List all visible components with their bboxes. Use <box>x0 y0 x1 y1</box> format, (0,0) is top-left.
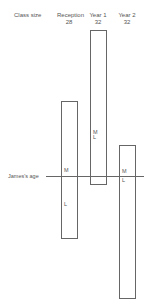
column-name: Year 2 <box>117 12 137 19</box>
class-size-label: Class size <box>14 12 41 19</box>
column-header-year-2: Year 2 32 <box>117 12 137 26</box>
column-header-year-1: Year 1 32 <box>88 12 108 26</box>
column-name: Year 1 <box>88 12 108 19</box>
bar-year-1 <box>90 30 107 185</box>
marker-m-reception: M <box>64 167 69 173</box>
column-name: Reception <box>57 12 81 19</box>
column-header-reception: Reception 28 <box>57 12 81 26</box>
james-age-line <box>46 176 144 177</box>
marker-l-reception: L <box>64 201 67 207</box>
marker-l-year-1: L <box>93 134 96 140</box>
james-age-label: James's age <box>8 173 39 180</box>
marker-m-year-2: M <box>122 168 127 174</box>
column-size: 32 <box>117 19 137 26</box>
marker-l-year-2: L <box>122 177 125 183</box>
column-size: 32 <box>88 19 108 26</box>
column-size: 28 <box>57 19 81 26</box>
